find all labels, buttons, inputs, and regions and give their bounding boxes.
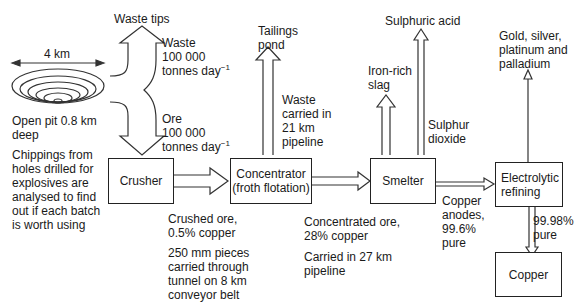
concentrated-ore-line-1: Concentrated ore, [304, 215, 400, 229]
pit-depth-label: Open pit 0.8 km deep [12, 114, 97, 142]
anodes-line-1: Copper [442, 194, 485, 208]
crusher-box: Crusher [108, 158, 174, 204]
precious-line-3: palladium [499, 57, 568, 71]
precious-line-2: platinum and [499, 43, 568, 57]
ore-line-1: Ore [162, 112, 230, 126]
waste-line-1: Waste [162, 36, 230, 50]
conveyor-line: carried through [168, 260, 249, 274]
waste-flow-label: Waste 100 000 tonnes day−1 [162, 36, 230, 78]
pit-note-line: is worth using [12, 218, 100, 232]
sulphur-dioxide-label: Sulphur dioxide [428, 118, 469, 146]
pit-depth-line-2: deep [12, 128, 97, 142]
anodes-line-2: anodes, [442, 208, 485, 222]
tailings-pipeline-note: Waste carried in 21 km pipeline [282, 93, 331, 149]
so2-line-2: dioxide [428, 132, 469, 146]
ore-line-3: tonnes day [162, 140, 221, 154]
smelter-box: Smelter [370, 158, 436, 204]
electrolytic-sublabel: refining [501, 185, 540, 199]
tailings-line-1: Tailings [258, 24, 298, 38]
electrolytic-box: Electrolytic refining [495, 162, 563, 207]
tailings-line-2: pond [258, 38, 298, 52]
concentrate-pipeline-line-2: pipeline [304, 264, 392, 278]
waste-exponent: −1 [221, 63, 230, 72]
crushed-ore-line-2: 0.5% copper [168, 226, 237, 240]
concentrate-pipeline-note: Carried in 27 km pipeline [304, 250, 392, 278]
pit-note-line: out if each batch [12, 204, 100, 218]
concentrated-ore-label: Concentrated ore, 28% copper [304, 215, 400, 243]
tailings-note-line: 21 km [282, 121, 331, 135]
sulphuric-acid-label: Sulphuric acid [385, 14, 460, 28]
anodes-line-3: 99.6% [442, 222, 485, 236]
slag-line-1: Iron-rich [368, 64, 412, 78]
precious-line-1: Gold, silver, [499, 29, 568, 43]
copper-box: Copper [495, 252, 562, 297]
tailings-note-line: pipeline [282, 135, 331, 149]
so2-line-1: Sulphur [428, 118, 469, 132]
refined-purity-label: 99.98% pure [533, 214, 574, 242]
concentrator-sublabel: (froth flotation) [232, 181, 309, 195]
tailings-note-line: Waste [282, 93, 331, 107]
pit-note-line: Chippings from [12, 148, 100, 162]
slag-line-2: slag [368, 78, 412, 92]
waste-line-2: 100 000 [162, 50, 230, 64]
pit-note-line: explosives are [12, 176, 100, 190]
copper-anodes-label: Copper anodes, 99.6% pure [442, 194, 485, 250]
ore-line-2: 100 000 [162, 126, 230, 140]
refined-line-1: 99.98% [533, 214, 574, 228]
tailings-note-line: carried in [282, 107, 331, 121]
crushed-ore-label: Crushed ore, 0.5% copper [168, 212, 237, 240]
electrolytic-label: Electrolytic [501, 171, 559, 185]
concentrator-box: Concentrator (froth flotation) [230, 158, 312, 204]
tailings-pond-label: Tailings pond [258, 24, 298, 52]
pit-note-line: holes drilled for [12, 162, 100, 176]
waste-tips-label: Waste tips [114, 12, 170, 26]
conveyor-line: 250 mm pieces [168, 246, 249, 260]
concentrate-pipeline-line-1: Carried in 27 km [304, 250, 392, 264]
conveyor-line: tunnel on 8 km [168, 274, 249, 288]
smelter-label: Smelter [382, 174, 423, 188]
waste-line-3: tonnes day [162, 64, 221, 78]
conveyor-line: conveyor belt [168, 288, 249, 302]
anodes-line-4: pure [442, 236, 485, 250]
iron-slag-label: Iron-rich slag [368, 64, 412, 92]
ore-flow-label: Ore 100 000 tonnes day−1 [162, 112, 230, 154]
pit-width-label: 4 km [44, 47, 70, 61]
crushed-ore-line-1: Crushed ore, [168, 212, 237, 226]
concentrator-label: Concentrator [236, 167, 305, 181]
pit-depth-line-1: Open pit 0.8 km [12, 114, 97, 128]
ore-exponent: −1 [221, 139, 230, 148]
concentrated-ore-line-2: 28% copper [304, 229, 400, 243]
refined-line-2: pure [533, 228, 574, 242]
crusher-label: Crusher [120, 174, 163, 188]
pit-note: Chippings from holes drilled for explosi… [12, 148, 100, 232]
pit-note-line: analysed to find [12, 190, 100, 204]
precious-metals-label: Gold, silver, platinum and palladium [499, 29, 568, 71]
copper-label: Copper [509, 268, 548, 282]
conveyor-note: 250 mm pieces carried through tunnel on … [168, 246, 249, 302]
